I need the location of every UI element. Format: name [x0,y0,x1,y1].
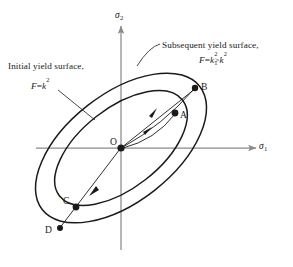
sigma2-subscript: 2 [120,14,123,21]
subsequent-surface-leader [137,44,160,66]
loading-path-lower-arrowhead [143,127,152,135]
yield-surface-figure: Initial yield surface, F=k2 Subsequent y… [0,0,293,267]
point-b-label: B [201,81,208,92]
point-d-label: D [45,224,52,235]
initial-formula-k-exponent: 2 [46,76,49,83]
sigma1-subscript: 1 [264,145,267,152]
sigma1-axis-label: σ1 [259,141,267,152]
origin-label: O [110,136,117,147]
unloading-path [59,149,120,229]
sigma2-axis-label: σ2 [115,10,123,21]
subsequent-formula-k-exponent: 2 [224,50,227,57]
subsequent-formula-k1-term: k21 [210,55,214,66]
subsequent-formula-k1-exponent: 2 [214,50,217,57]
point-b-marker [192,85,198,91]
subsequent-formula-k1-subscript: 1 [214,59,217,66]
initial-formula-k-term: k2 [42,81,46,92]
initial-yield-surface-caption: Initial yield surface, [8,61,84,72]
subsequent-yield-surface-caption: Subsequent yield surface, [162,40,259,51]
subsequent-formula-k-term: k2 [220,55,224,66]
origin-marker [117,144,124,151]
leader-lines-group [58,44,160,120]
point-a-label: A [180,109,187,120]
point-c-marker [73,204,80,211]
point-c-label: C [63,195,70,206]
loading-path-upper-arrowhead [149,108,157,118]
point-a-marker [172,110,179,117]
initial-yield-surface-formula: F=k2 [31,81,46,92]
point-d-marker [57,225,63,231]
subsequent-yield-surface-formula: F=k21>k2 [199,55,224,66]
